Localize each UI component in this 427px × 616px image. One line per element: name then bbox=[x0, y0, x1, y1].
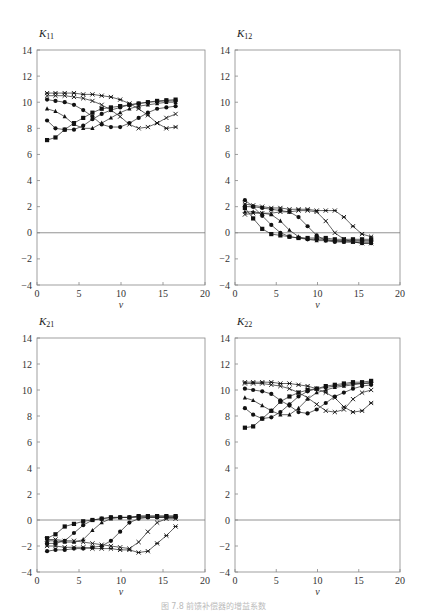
plot-frame bbox=[37, 338, 205, 572]
x-axis-label: v bbox=[119, 586, 124, 597]
y-tick-label: 6 bbox=[27, 437, 32, 448]
x-tick-label: 5 bbox=[274, 575, 279, 586]
chart-title: K12 bbox=[236, 27, 252, 41]
y-tick-label: 2 bbox=[225, 489, 230, 500]
x-tick-label: 20 bbox=[200, 288, 210, 299]
plot-frame bbox=[37, 50, 205, 285]
y-tick-label: 4 bbox=[27, 463, 32, 474]
y-tick-label: 12 bbox=[220, 359, 230, 370]
y-tick-label: 10 bbox=[220, 385, 230, 396]
x-tick-label: 15 bbox=[158, 288, 168, 299]
y-tick-label: 14 bbox=[22, 45, 32, 56]
y-tick-label: 0 bbox=[27, 227, 32, 238]
y-tick-label: −4 bbox=[219, 567, 230, 578]
plot-frame bbox=[235, 50, 400, 285]
chart-panel-k22: 14121086420−2−405101520vK22 bbox=[219, 315, 405, 597]
y-tick-label: −4 bbox=[21, 567, 32, 578]
x-axis-label: v bbox=[315, 299, 320, 310]
figure-caption: 图 7.8 前馈补偿器的增益系数 bbox=[0, 600, 427, 611]
x-tick-label: 0 bbox=[35, 288, 40, 299]
x-tick-label: 10 bbox=[116, 575, 126, 586]
x-tick-label: 20 bbox=[200, 575, 210, 586]
series-s5 bbox=[45, 517, 178, 551]
chart-figure: 14121086420−2−405101520vK1114121086420−2… bbox=[0, 0, 427, 616]
x-tick-label: 15 bbox=[354, 575, 364, 586]
y-tick-label: −2 bbox=[21, 253, 32, 264]
x-tick-label: 10 bbox=[313, 575, 323, 586]
x-tick-label: 0 bbox=[233, 575, 238, 586]
y-tick-label: 2 bbox=[27, 489, 32, 500]
y-tick-label: 14 bbox=[22, 333, 32, 344]
y-tick-label: 10 bbox=[220, 97, 230, 108]
x-tick-label: 15 bbox=[158, 575, 168, 586]
y-tick-label: 10 bbox=[22, 97, 32, 108]
y-tick-label: 4 bbox=[27, 175, 32, 186]
y-tick-label: −2 bbox=[219, 541, 230, 552]
y-tick-label: 4 bbox=[225, 463, 230, 474]
x-tick-label: 20 bbox=[395, 288, 405, 299]
x-axis-label: v bbox=[119, 299, 124, 310]
y-tick-label: 4 bbox=[225, 175, 230, 186]
y-tick-label: 2 bbox=[225, 201, 230, 212]
y-tick-label: 6 bbox=[225, 437, 230, 448]
y-tick-label: 12 bbox=[220, 71, 230, 82]
y-tick-label: 14 bbox=[220, 45, 230, 56]
y-tick-label: 12 bbox=[22, 71, 32, 82]
x-tick-label: 5 bbox=[274, 288, 279, 299]
chart-panel-k11: 14121086420−2−405101520vK11 bbox=[21, 27, 210, 310]
x-tick-label: 20 bbox=[395, 575, 405, 586]
y-tick-label: 0 bbox=[225, 515, 230, 526]
y-tick-label: 12 bbox=[22, 359, 32, 370]
x-tick-label: 0 bbox=[35, 575, 40, 586]
chart-panel-k12: 14121086420−2−405101520vK12 bbox=[219, 27, 405, 310]
x-tick-label: 10 bbox=[313, 288, 323, 299]
x-tick-label: 0 bbox=[233, 288, 238, 299]
y-tick-label: 8 bbox=[27, 123, 32, 134]
x-tick-label: 10 bbox=[116, 288, 126, 299]
x-tick-label: 5 bbox=[77, 575, 82, 586]
chart-title: K11 bbox=[38, 27, 54, 41]
chart-panel-k21: 14121086420−2−405101520vK21 bbox=[21, 315, 210, 597]
y-tick-label: 14 bbox=[220, 333, 230, 344]
y-tick-label: 2 bbox=[27, 201, 32, 212]
y-tick-label: −2 bbox=[219, 253, 230, 264]
y-tick-label: 8 bbox=[225, 123, 230, 134]
x-tick-label: 15 bbox=[354, 288, 364, 299]
chart-title: K22 bbox=[236, 315, 252, 329]
y-tick-label: 8 bbox=[27, 411, 32, 422]
x-tick-label: 5 bbox=[77, 288, 82, 299]
y-tick-label: −4 bbox=[219, 280, 230, 291]
y-tick-label: 0 bbox=[27, 515, 32, 526]
chart-title: K21 bbox=[38, 315, 54, 329]
y-tick-label: −2 bbox=[21, 541, 32, 552]
y-tick-label: 6 bbox=[225, 149, 230, 160]
y-tick-label: 8 bbox=[225, 411, 230, 422]
y-tick-label: 10 bbox=[22, 385, 32, 396]
y-tick-label: 0 bbox=[225, 227, 230, 238]
plot-frame bbox=[235, 338, 400, 572]
y-tick-label: 6 bbox=[27, 149, 32, 160]
x-axis-label: v bbox=[315, 586, 320, 597]
y-tick-label: −4 bbox=[21, 280, 32, 291]
